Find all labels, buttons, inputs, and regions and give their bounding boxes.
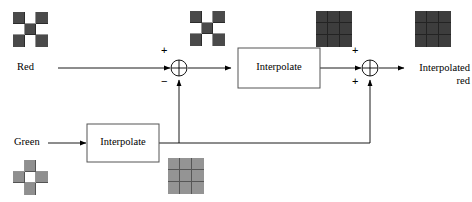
patch-cell [415,23,427,35]
patch-cell [13,12,25,24]
patch-cell [192,158,204,170]
patch-cell [202,23,214,35]
patch-cell [439,11,451,23]
patch-cell [415,11,427,23]
patch-cell [340,23,352,35]
patch-cell [36,24,48,36]
patch-cell [328,23,340,35]
patch-cell [36,35,48,47]
diagram-wiring [0,0,472,202]
patch-cell [439,23,451,35]
patch-cell [328,11,340,23]
patch-cell [25,172,37,184]
patch-cell [13,183,25,195]
patch-cell [25,35,37,47]
patch-cell [427,23,439,35]
patch-cell [168,182,180,194]
patch-cell [25,24,37,36]
signal-flow-diagram: Red Green Interpolate Interpolate + − + … [0,0,472,202]
patch-cell [36,160,48,172]
sum-junction-2-plus-sign-top: + [352,44,358,57]
patch-cell [192,182,204,194]
sum-junction-1-plus-sign: + [161,44,167,57]
interpolate-red-block-label: Interpolate [238,61,320,73]
green-input-label: Green [14,136,40,148]
patch-cell [427,35,439,47]
patch-cell [415,35,427,47]
patch-cell [192,170,204,182]
patch-cell [25,12,37,24]
patch-cell [190,34,202,46]
patch-cell [213,11,225,23]
patch-cell [13,160,25,172]
patch-cell [316,23,328,35]
interpolated-red-patch [415,11,451,47]
interpolated-difference-patch [316,11,352,47]
patch-cell [427,11,439,23]
green-mosaic-patch [13,160,48,195]
patch-cell [13,35,25,47]
interpolated-green-patch [168,158,204,194]
patch-cell [340,35,352,47]
patch-cell [168,158,180,170]
interpolate-green-block-label: Interpolate [87,136,159,148]
patch-cell [180,158,192,170]
red-mosaic-patch [13,12,48,47]
red-input-label: Red [17,61,34,73]
patch-cell [36,172,48,184]
patch-cell [190,23,202,35]
sum-junction-2-plus-sign-bottom: + [352,75,358,88]
patch-cell [213,23,225,35]
patch-cell [13,24,25,36]
patch-cell [439,35,451,47]
patch-cell [36,12,48,24]
output-label-line1: Interpolated [406,61,470,74]
patch-cell [316,35,328,47]
patch-cell [202,11,214,23]
sum-junction-1-minus-sign: − [161,75,167,88]
patch-cell [168,170,180,182]
patch-cell [25,183,37,195]
patch-cell [316,11,328,23]
patch-cell [180,170,192,182]
patch-cell [180,182,192,194]
patch-cell [213,34,225,46]
patch-cell [340,11,352,23]
red-difference-patch [190,11,225,46]
patch-cell [25,160,37,172]
patch-cell [202,34,214,46]
patch-cell [328,35,340,47]
patch-cell [36,183,48,195]
patch-cell [190,11,202,23]
patch-cell [13,172,25,184]
output-label-line2: red [406,74,470,87]
